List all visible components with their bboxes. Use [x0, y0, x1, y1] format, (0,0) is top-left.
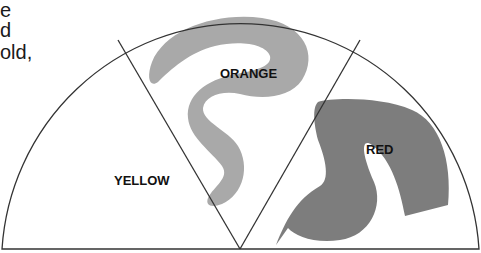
- red-swatch: [276, 99, 449, 245]
- semicircle-diagram: YELLOW ORANGE RED: [0, 0, 481, 253]
- label-yellow: YELLOW: [114, 173, 170, 188]
- label-orange: ORANGE: [220, 66, 277, 81]
- label-red: RED: [366, 142, 393, 157]
- orange-swatch: [149, 17, 308, 206]
